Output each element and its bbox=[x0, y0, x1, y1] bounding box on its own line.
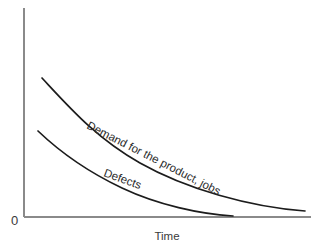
x-axis-title: Time bbox=[154, 230, 179, 242]
origin-label: 0 bbox=[11, 213, 18, 228]
chart-canvas: 0 Time Demand for the product, jobs Defe… bbox=[0, 0, 328, 250]
demand-curve bbox=[42, 78, 305, 211]
demand-curve-label: Demand for the product, jobs bbox=[85, 119, 223, 197]
chart-container: 0 Time Demand for the product, jobs Defe… bbox=[0, 0, 328, 250]
